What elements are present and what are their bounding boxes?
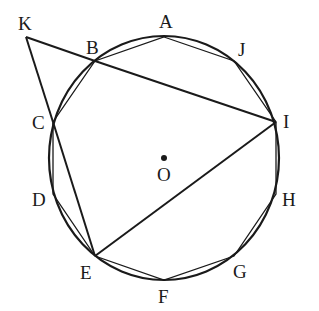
point-label-b: B xyxy=(86,37,99,58)
segment-ce xyxy=(53,122,95,256)
point-label-d: D xyxy=(32,189,46,210)
geometry-diagram: AJIHGFEDCBKO xyxy=(0,0,319,311)
diagram-shapes xyxy=(26,36,279,280)
segment-bi xyxy=(95,61,276,122)
segment-kc xyxy=(26,37,53,122)
point-label-i: I xyxy=(283,111,289,132)
segment-kb xyxy=(26,37,95,61)
point-label-o: O xyxy=(157,164,171,185)
point-label-f: F xyxy=(158,286,169,307)
point-label-a: A xyxy=(159,11,173,32)
center-point-o xyxy=(161,155,167,161)
point-label-g: G xyxy=(233,261,247,282)
point-label-e: E xyxy=(80,262,92,283)
point-label-j: J xyxy=(238,39,245,60)
diagram-labels: AJIHGFEDCBKO xyxy=(18,11,296,307)
segment-ei xyxy=(95,122,276,256)
point-label-h: H xyxy=(282,189,296,210)
point-label-c: C xyxy=(32,112,45,133)
point-label-k: K xyxy=(18,13,32,34)
